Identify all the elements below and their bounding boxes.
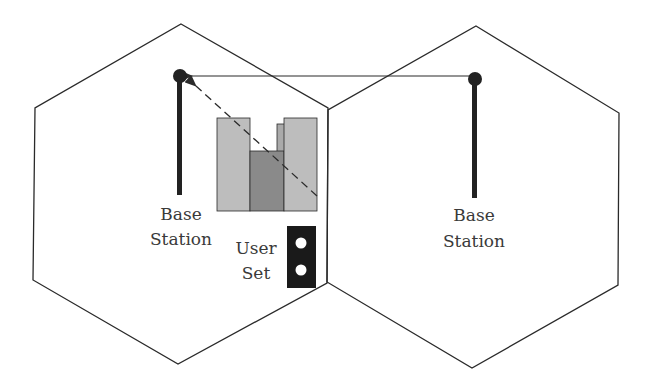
right-base-station-icon — [468, 72, 482, 198]
left-base-station-icon — [173, 69, 187, 195]
building-middle — [250, 151, 284, 211]
right-base-station-label-line2: Station — [443, 231, 505, 251]
user-set-phone-icon — [287, 226, 316, 288]
right-base-station-label-line1: Base — [453, 205, 494, 225]
user-set-label-line2: Set — [242, 263, 271, 283]
diagram-canvas: Base Station Base Station User Set — [0, 0, 649, 388]
user-set-label-line1: User — [235, 238, 277, 258]
building-right — [284, 118, 317, 211]
left-base-station-label-line2: Station — [150, 229, 212, 249]
left-base-station-label-line1: Base — [160, 204, 201, 224]
building-left — [217, 118, 250, 211]
buildings — [217, 118, 317, 211]
